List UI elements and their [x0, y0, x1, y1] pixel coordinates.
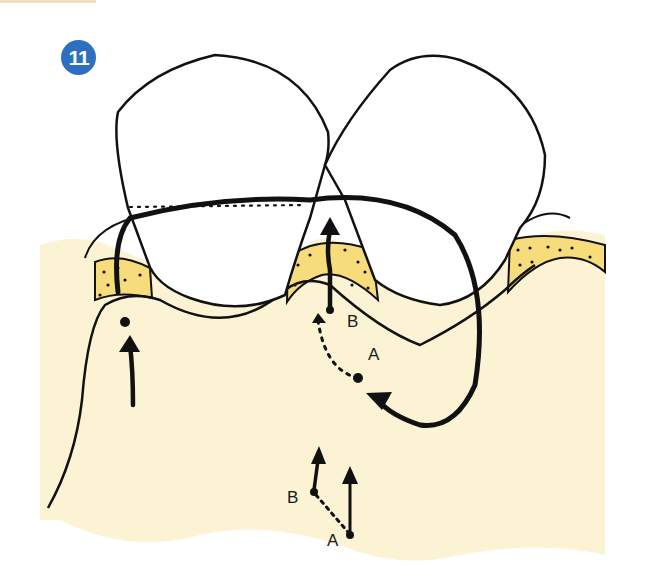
center-arrowhead — [320, 217, 340, 235]
label-upper-a: A — [368, 345, 379, 365]
center-point-b — [326, 306, 334, 314]
label-upper-b: B — [347, 312, 358, 332]
bone-left — [95, 258, 152, 300]
label-lower-b: B — [287, 488, 298, 508]
upper-point-a — [353, 373, 363, 383]
figure-canvas: 11 — [0, 0, 645, 587]
label-lower-a: A — [327, 531, 338, 551]
center-arrow-shaft — [328, 230, 330, 310]
dental-illustration — [0, 0, 645, 587]
left-point — [120, 317, 130, 327]
